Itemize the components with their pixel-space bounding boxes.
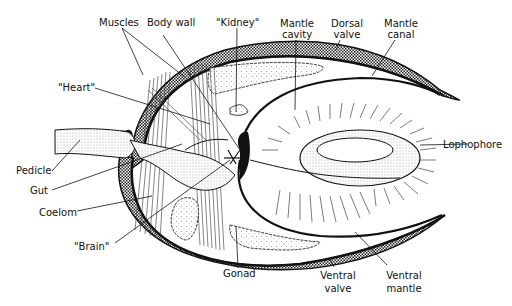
gut-shape [130, 139, 235, 190]
label-dorsal-valve-line1: Dorsal [330, 18, 364, 29]
label-gut: Gut [30, 185, 48, 196]
label-pedicle: Pedicle [16, 165, 51, 176]
label-ventral-valve-line1: Ventral [318, 270, 358, 281]
label-mantle-cavity-line2: cavity [280, 29, 314, 40]
gonad-shape [171, 198, 320, 251]
lophophore-shape [250, 103, 436, 222]
label-ventral-mantle-line2: mantle [384, 283, 424, 294]
label-mantle-canal-line2: canal [384, 29, 418, 40]
label-lophophore: Lophophore [443, 139, 502, 150]
brachiopod-anatomy-diagram [0, 0, 512, 306]
label-gonad: Gonad [223, 268, 256, 279]
label-brain: "Brain" [74, 241, 109, 252]
label-mantle-canal-line1: Mantle [384, 18, 418, 29]
label-muscles: Muscles [99, 17, 139, 28]
label-kidney: "Kidney" [216, 17, 259, 28]
label-ventral-valve-line2: valve [318, 283, 358, 294]
label-dorsal-valve-line2: valve [330, 29, 364, 40]
label-body-wall: Body wall [147, 17, 195, 28]
label-ventral-mantle-line1: Ventral [384, 270, 424, 281]
label-coelom: Coelom [39, 207, 77, 218]
label-heart: "Heart" [58, 82, 95, 93]
label-mantle-cavity-line1: Mantle [280, 18, 314, 29]
pedicle-shape [55, 129, 135, 158]
